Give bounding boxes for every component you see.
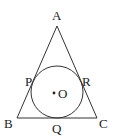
label-a: A (52, 8, 62, 23)
incircle (31, 66, 83, 118)
incircle-diagram: A B C P Q R O (0, 0, 114, 139)
label-q: Q (52, 121, 62, 136)
label-p: P (25, 74, 32, 89)
label-b: B (4, 116, 13, 131)
label-o: O (58, 86, 67, 101)
triangle-abc (17, 26, 97, 118)
label-c: C (99, 116, 108, 131)
label-r: R (82, 74, 91, 89)
center-dot (53, 92, 56, 95)
